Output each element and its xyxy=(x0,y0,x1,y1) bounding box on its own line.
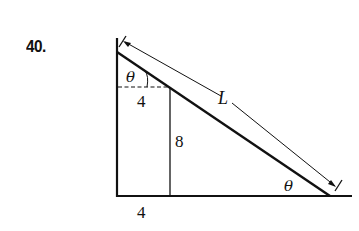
theta-top-label: θ xyxy=(126,68,135,86)
tick-bottom xyxy=(335,180,342,191)
dimension-line-lower xyxy=(232,103,335,186)
top-horizontal-label: 4 xyxy=(137,92,146,111)
arrowhead-top-icon xyxy=(123,41,131,47)
bottom-horizontal-label: 4 xyxy=(137,203,146,222)
hypotenuse-line xyxy=(117,52,330,196)
hypotenuse-label: L xyxy=(217,88,228,108)
triangle-diagram: θ 4 8 L θ 4 xyxy=(0,0,359,231)
dimension-line-upper xyxy=(125,42,221,96)
vertical-label: 8 xyxy=(175,132,184,151)
theta-bottom-label: θ xyxy=(284,177,293,195)
